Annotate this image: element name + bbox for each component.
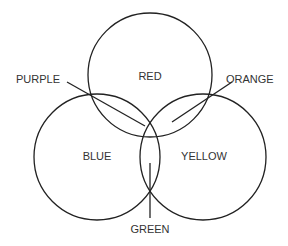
blue-label: BLUE [83, 150, 112, 162]
orange-label: ORANGE [226, 73, 274, 85]
red-label: RED [138, 70, 161, 82]
orange-callout-line [172, 82, 232, 122]
yellow-label: YELLOW [181, 150, 227, 162]
venn-diagram: RED BLUE YELLOW PURPLE ORANGE GREEN [0, 0, 288, 246]
green-label: GREEN [130, 223, 169, 235]
purple-label: PURPLE [16, 73, 60, 85]
